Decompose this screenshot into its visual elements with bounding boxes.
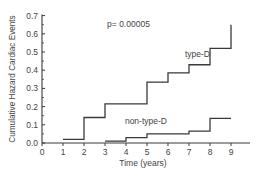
labels-group: Time (years)Cumulative Hazard Cardiac Ev…	[8, 15, 210, 168]
x-tick-label: 0	[40, 147, 45, 157]
series-label-non-type-d: non-type-D	[125, 116, 167, 126]
x-tick-label: 5	[145, 147, 150, 157]
series-label-type-d: type-D	[185, 49, 210, 59]
x-tick-label: 1	[61, 147, 66, 157]
x-tick-label: 7	[187, 147, 192, 157]
x-tick-label: 9	[229, 147, 234, 157]
x-tick-label: 2	[82, 147, 87, 157]
y-tick-label: 0.0	[26, 138, 38, 148]
x-axis-title: Time (years)	[119, 158, 167, 168]
x-tick-label: 4	[124, 147, 129, 157]
p-value-annotation: p= 0.00005	[107, 19, 150, 29]
x-tick-label: 8	[208, 147, 213, 157]
series-non-type-d-line	[105, 118, 231, 141]
y-tick-label: 0.6	[26, 29, 38, 39]
x-tick-label: 6	[166, 147, 171, 157]
y-tick-label: 0.3	[26, 83, 38, 93]
axes: 0.00.10.20.30.40.50.60.70123456789	[26, 11, 250, 157]
y-axis-title: Cumulative Hazard Cardiac Events	[8, 15, 17, 142]
y-tick-label: 0.1	[26, 120, 38, 130]
y-tick-label: 0.7	[26, 11, 38, 21]
x-tick-label: 3	[103, 147, 108, 157]
y-tick-label: 0.5	[26, 47, 38, 57]
cumulative-hazard-chart: 0.00.10.20.30.40.50.60.70123456789 Time …	[0, 0, 259, 177]
y-tick-label: 0.4	[26, 65, 38, 75]
y-tick-label: 0.2	[26, 102, 38, 112]
